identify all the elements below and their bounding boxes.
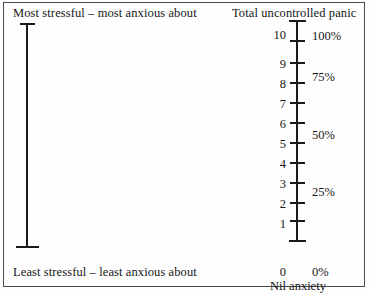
ruler-tick	[290, 202, 305, 204]
ruler-number-4: 4	[260, 158, 286, 170]
ruler-tick	[290, 82, 305, 84]
right-scale-top-caption: Total uncontrolled panic	[232, 6, 356, 20]
ruler-percent-75: 75%	[312, 71, 335, 83]
ruler-tick	[290, 62, 305, 64]
ruler-number-10: 10	[260, 29, 286, 41]
ruler-number-6: 6	[260, 118, 286, 130]
ruler-tick	[290, 182, 305, 184]
ruler-percent-100: 100%	[312, 30, 341, 42]
ruler-tick	[290, 40, 305, 42]
left-bracket-bottom-cap	[16, 246, 39, 248]
ruler-tick	[290, 122, 305, 124]
ruler-number-2: 2	[260, 198, 286, 210]
frame-left-border	[3, 2, 4, 287]
ruler-tick	[290, 142, 305, 144]
ruler-number-7: 7	[260, 98, 286, 110]
numeric-anxiety-ruler: 10 9 8 7 6 5 4 3 2 1 100% 75% 50% 25% 0 …	[262, 20, 367, 270]
ruler-axis-line	[296, 20, 298, 242]
frame-top-border	[3, 2, 365, 3]
ruler-tick	[290, 220, 305, 222]
left-scale-bottom-caption: Least stressful – least anxious about	[13, 265, 197, 279]
left-bracket-stem	[26, 23, 28, 248]
ruler-number-3: 3	[260, 178, 286, 190]
ruler-number-0: 0	[260, 266, 286, 278]
ruler-percent-0: 0%	[312, 266, 329, 278]
ruler-bottom-cap	[289, 240, 306, 242]
ruler-number-9: 9	[260, 58, 286, 70]
left-scale-top-caption: Most stressful – most anxious about	[13, 6, 197, 20]
right-scale-bottom-caption: Nil anxiety	[270, 280, 326, 292]
ruler-number-8: 8	[260, 78, 286, 90]
ruler-number-1: 1	[260, 218, 286, 230]
ruler-number-5: 5	[260, 138, 286, 150]
ruler-tick	[290, 102, 305, 104]
ruler-percent-25: 25%	[312, 186, 335, 198]
ruler-top-cap	[289, 20, 306, 22]
left-scale-bracket	[14, 23, 40, 248]
ruler-tick	[290, 162, 305, 164]
ruler-percent-50: 50%	[312, 129, 335, 141]
